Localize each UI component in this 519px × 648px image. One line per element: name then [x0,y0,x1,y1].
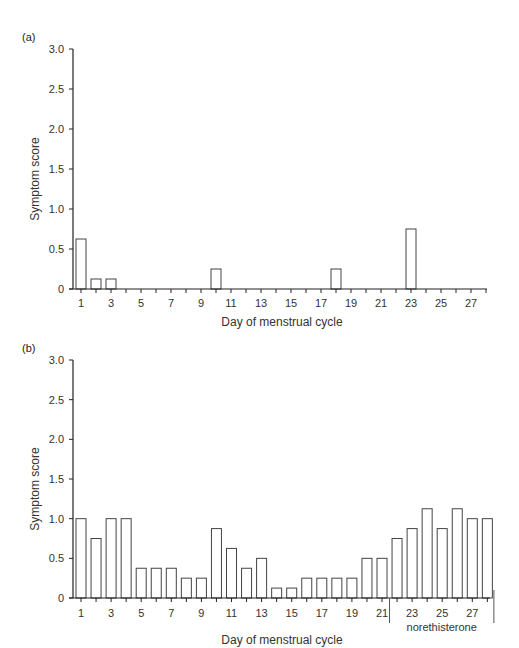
y-tick-label: 0.5 [49,552,64,564]
y-tick-label: 0 [58,592,64,604]
x-tick-label: 17 [316,607,328,619]
bar-day-16 [302,578,312,598]
y-tick-label: 2.5 [49,394,64,406]
y-tick-label: 2.0 [49,433,64,445]
bar-day-10 [211,529,221,598]
x-tick-label: 11 [226,607,237,619]
bar-day-9 [196,578,206,598]
x-tick-label: 19 [346,607,358,619]
bar-day-23 [407,529,417,598]
bar-day-1 [76,519,86,598]
y-tick-label: 2.5 [49,83,64,95]
bar-day-8 [181,578,191,598]
x-tick-label: 1 [78,297,84,309]
x-tick-label: 3 [108,607,114,619]
x-tick-label: 7 [168,607,174,619]
x-tick-label: 1 [78,607,84,619]
y-tick-label: 3.0 [49,354,64,366]
bar-day-4 [121,519,131,598]
bar-day-2 [91,539,101,599]
x-tick-label: 9 [198,297,204,309]
bar-day-18 [331,269,341,289]
x-tick-label: 13 [255,607,267,619]
x-tick-label: 11 [225,297,236,309]
x-tick-label: 27 [466,607,478,619]
bar-day-12 [242,568,252,598]
bar-day-19 [347,578,357,598]
bar-day-15 [287,588,297,598]
x-axis-title: Day of menstrual cycle [221,633,343,647]
chart-panel-b: (b)00.51.01.52.02.53.0Symptom score13579… [22,342,494,647]
x-tick-label: 25 [436,607,448,619]
bar-day-24 [422,509,432,598]
bar-day-10 [211,269,221,289]
y-tick-label: 1.0 [49,203,64,215]
annotation-label: norethisterone [407,621,477,633]
y-tick-label: 2.0 [49,123,64,135]
bar-day-25 [437,529,447,598]
bar-day-22 [392,539,402,599]
bar-day-14 [272,588,282,598]
bar-day-2 [91,279,101,289]
y-tick-label: 1.0 [49,513,64,525]
bar-day-21 [377,558,387,598]
bar-day-27 [467,519,477,598]
y-tick-label: 1.5 [49,163,64,175]
x-tick-label: 15 [286,607,298,619]
bar-day-18 [332,578,342,598]
x-tick-label: 19 [345,297,357,309]
bar-day-28 [482,519,492,598]
panel-label: (b) [22,342,35,354]
panel-label: (a) [22,31,35,43]
bar-day-6 [151,568,161,598]
x-tick-label: 21 [376,607,388,619]
x-tick-label: 23 [405,297,417,309]
bar-day-11 [227,548,237,598]
bar-day-17 [317,578,327,598]
x-tick-label: 7 [168,297,174,309]
y-tick-label: 3.0 [49,43,64,55]
figure: (a)00.51.01.52.02.53.0Symptom score13579… [0,0,519,648]
chart-panel-a: (a)00.51.01.52.02.53.0Symptom score13579… [22,31,487,329]
bar-day-26 [452,509,462,598]
y-axis-title: Symptom score [28,137,42,221]
x-tick-label: 5 [138,297,144,309]
bar-day-5 [136,568,146,598]
x-tick-label: 21 [375,297,387,309]
x-tick-label: 3 [108,297,114,309]
bar-day-3 [106,519,116,598]
y-tick-label: 0.5 [49,243,64,255]
x-tick-label: 27 [465,297,477,309]
x-tick-label: 5 [138,607,144,619]
x-tick-label: 25 [435,297,447,309]
x-tick-label: 23 [406,607,418,619]
y-axis-title: Symptom score [28,447,42,531]
x-tick-label: 15 [285,297,297,309]
bar-day-23 [406,229,416,289]
bar-day-13 [257,558,267,598]
y-tick-label: 1.5 [49,473,64,485]
y-tick-label: 0 [58,283,64,295]
bar-day-7 [166,568,176,598]
x-tick-label: 13 [255,297,267,309]
x-tick-label: 9 [198,607,204,619]
bar-day-1 [76,239,86,289]
x-tick-label: 17 [315,297,327,309]
x-axis-title: Day of menstrual cycle [221,315,343,329]
bar-day-3 [106,279,116,289]
bar-day-20 [362,558,372,598]
